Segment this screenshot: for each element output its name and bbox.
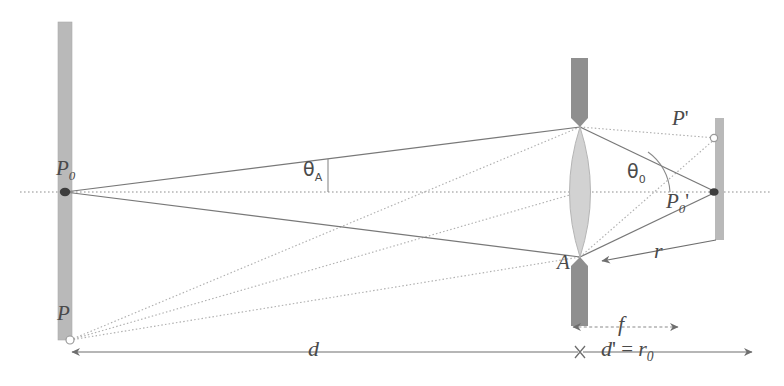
point-marker-P-prime bbox=[710, 134, 717, 141]
label-theta-a: θA bbox=[303, 160, 322, 183]
point-marker-P0 bbox=[60, 188, 70, 196]
solid-ray-P0-lens-top bbox=[65, 127, 580, 192]
point-marker-P bbox=[66, 336, 74, 344]
solid-ray-P0-lens-bottom bbox=[65, 192, 580, 257]
dotted-ray-lensbottom-Pprime bbox=[580, 138, 716, 257]
solid-ray-lensbottom-P0prime bbox=[580, 192, 716, 257]
solid-ray-bundle bbox=[65, 127, 716, 257]
theta-0-arc bbox=[648, 152, 670, 192]
optics-figure: P0 P P' P0' A θA θ0 r f d d' = r0 bbox=[0, 0, 784, 386]
label-P0-prime: P0' bbox=[666, 191, 689, 215]
dotted-ray-P-lens-center bbox=[70, 192, 580, 340]
aperture-stop-upper bbox=[571, 58, 588, 127]
label-d: d bbox=[308, 338, 319, 360]
label-P: P bbox=[57, 303, 70, 324]
label-P-prime: P' bbox=[672, 108, 689, 129]
dotted-ray-P-lens-bottom bbox=[70, 257, 580, 340]
converging-lens bbox=[570, 127, 591, 257]
point-marker-P0-prime bbox=[709, 188, 718, 196]
label-theta-0: θ0 bbox=[627, 162, 646, 185]
label-d-prime-equals-r0: d' = r0 bbox=[601, 338, 654, 364]
label-P0: P0 bbox=[56, 158, 75, 182]
label-r: r bbox=[654, 240, 663, 262]
label-f: f bbox=[618, 313, 624, 335]
label-A: A bbox=[557, 252, 570, 273]
aperture-stop-lower bbox=[571, 257, 588, 326]
